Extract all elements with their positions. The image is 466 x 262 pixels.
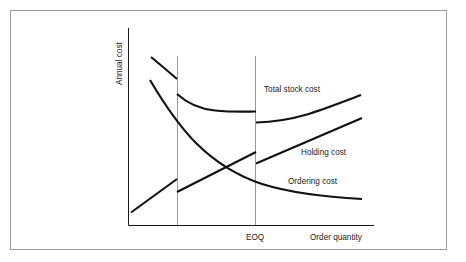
reference-gridlines — [178, 56, 256, 225]
holding-cost-segment-1 — [131, 179, 177, 213]
chart-axes — [129, 28, 375, 226]
x-axis-title: Order quantity — [310, 233, 363, 242]
eoq-cost-chart: Total stock cost Holding cost Ordering c… — [0, 0, 466, 262]
axis-titles: Annual cost Order quantity EOQ — [115, 41, 363, 242]
figure-root: Total stock cost Holding cost Ordering c… — [0, 0, 466, 262]
x-tick-label-eoq: EOQ — [246, 233, 264, 242]
holding-cost-segment-2 — [177, 152, 256, 192]
series-holding-cost — [131, 118, 362, 213]
annotation-holding-cost: Holding cost — [301, 148, 347, 157]
annotation-total-stock-cost: Total stock cost — [264, 85, 321, 94]
series-total-stock-cost — [151, 57, 361, 123]
annotation-ordering-cost: Ordering cost — [288, 177, 338, 186]
total-stock-cost-segment-1 — [151, 57, 177, 79]
chart-annotations: Total stock cost Holding cost Ordering c… — [264, 85, 347, 186]
y-axis-title: Annual cost — [115, 41, 124, 85]
total-stock-cost-segment-3 — [256, 95, 361, 123]
total-stock-cost-segment-2 — [177, 94, 256, 112]
